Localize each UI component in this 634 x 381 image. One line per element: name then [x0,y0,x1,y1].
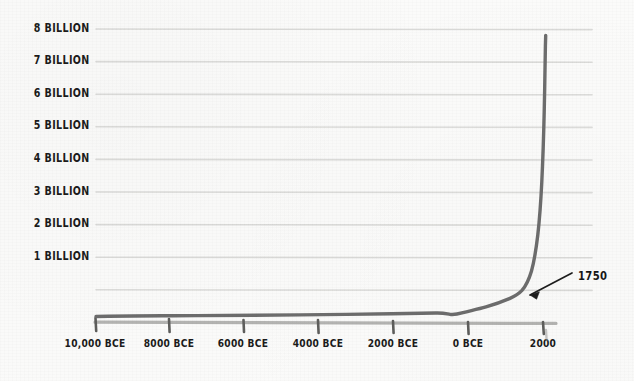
x-tick-2000-bce [393,321,394,333]
annotation-arrow-1750 [530,273,572,299]
gridline-7-billion [96,62,592,63]
gridline-0-5-billion [96,290,592,291]
population-curve [96,36,546,317]
gridline-3-billion [96,192,592,193]
x-axis-line [95,322,556,323]
gridline-8-billion [96,29,592,30]
x-tick-2000 [543,322,544,334]
x-axis-ticks [96,318,544,334]
gridline-1-billion [96,257,592,258]
chart-plot-area [0,0,634,381]
paper-speck [546,330,547,340]
x-tick-6000-bce [244,320,245,332]
gridline-2-billion [96,225,592,226]
x-tick-10000-bce [96,318,97,331]
population-chart: 8 BILLION 7 BILLION 6 BILLION 5 BILLION … [0,0,634,381]
gridline-4-billion [96,159,592,160]
gridline-6-billion [96,94,592,95]
gridline-5-billion [96,127,592,128]
x-tick-4000-bce [318,320,319,333]
x-tick-8000-bce [169,319,170,332]
gridlines [96,29,592,290]
x-tick-0-bce [468,322,469,334]
